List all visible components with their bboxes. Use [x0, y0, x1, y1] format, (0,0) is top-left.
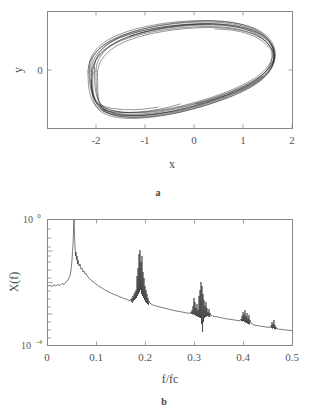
panel-b-caption: b [161, 396, 167, 407]
panel-b-spectrum-trace [48, 220, 292, 332]
panel-b-power-spectrum: 0 0.1 0.2 0.3 0.4 0.5 10 0 10 -4 f/fc X(… [0, 206, 316, 412]
panel-b-ytick-bottom-exp: -4 [36, 338, 42, 346]
panel-b-xticks [48, 220, 293, 346]
panel-b-frame [48, 220, 293, 346]
panel-a-phase-portrait: -2 -1 0 1 2 0 x y a [0, 0, 316, 206]
panel-b-yaxis-label: X(f) [7, 272, 21, 293]
panel-a-xticks [96, 12, 292, 129]
panel-a-xaxis-label: x [169, 157, 175, 171]
panel-b-ytick-top-exp: 0 [37, 212, 41, 220]
panel-b-xtick-0: 0 [44, 351, 50, 363]
panel-b-xticklabels: 0 0.1 0.2 0.3 0.4 0.5 [44, 351, 299, 363]
panel-a-ytick-0: 0 [37, 64, 43, 76]
panel-a-xtick-2: 0 [191, 134, 197, 146]
panel-b-ytick-top-base: 10 [23, 214, 33, 225]
panel-b-svg: 0 0.1 0.2 0.3 0.4 0.5 10 0 10 -4 f/fc X(… [0, 206, 316, 412]
panel-a-xtick-0: -2 [91, 134, 100, 146]
panel-b-xtick-3: 0.3 [187, 351, 201, 363]
panel-a-xticklabels: -2 -1 0 1 2 [91, 134, 294, 146]
panel-a-xtick-4: 2 [289, 134, 295, 146]
panel-b-ytick-top-label: 10 0 [23, 212, 41, 225]
panel-b-xaxis-label: f/fc [162, 372, 179, 386]
panel-a-svg: -2 -1 0 1 2 0 x y a [0, 0, 316, 206]
panel-b-xtick-1: 0.1 [89, 351, 103, 363]
panel-b-xtick-5: 0.5 [285, 351, 299, 363]
panel-b-ytick-bottom-label: 10 -4 [21, 338, 42, 351]
panel-b-xtick-4: 0.4 [236, 351, 250, 363]
figure-container: -2 -1 0 1 2 0 x y a [0, 0, 316, 412]
panel-a-xtick-3: 1 [240, 134, 246, 146]
panel-b-yticks [48, 220, 53, 346]
panel-a-caption: a [156, 187, 161, 198]
panel-b-xtick-2: 0.2 [138, 351, 152, 363]
panel-b-ytick-bottom-base: 10 [21, 340, 31, 351]
panel-a-yaxis-label: y [11, 67, 25, 73]
panel-a-xtick-1: -1 [140, 134, 149, 146]
panel-a-attractor [88, 21, 275, 119]
